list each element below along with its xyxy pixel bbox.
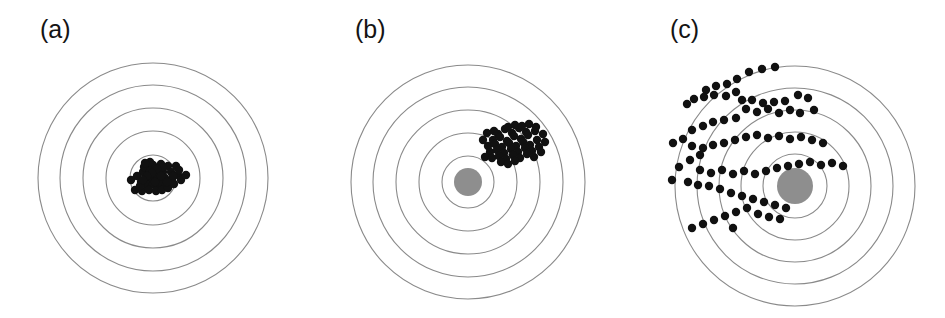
shot-dot (806, 158, 814, 166)
shot-dot (707, 169, 715, 177)
shot-dot (732, 114, 740, 122)
panel-label-b: (b) (355, 14, 386, 44)
shot-dot (723, 80, 731, 88)
shot-dot (753, 108, 761, 116)
shot-dot (786, 135, 794, 143)
bullseye-center (777, 168, 813, 204)
shot-dot (175, 166, 183, 174)
target-panel-b: (b) (315, 0, 630, 318)
target-panel-a: (a) (0, 0, 315, 318)
shot-dot (732, 208, 740, 216)
shot-dot (732, 88, 740, 96)
shot-dot (754, 210, 762, 218)
shot-dot (731, 136, 739, 144)
shot-dot (688, 224, 696, 232)
shot-dot (775, 109, 783, 117)
shot-dot (541, 138, 549, 146)
shot-dot (669, 139, 677, 147)
shot-dot (781, 97, 789, 105)
shot-dot (139, 176, 147, 184)
panel-label-a: (a) (40, 14, 71, 44)
shot-dot-group (479, 120, 549, 168)
shot-dot (828, 159, 836, 167)
shot-dot (710, 91, 718, 99)
shot-dot (709, 118, 717, 126)
shot-dot (758, 65, 766, 73)
accuracy-precision-figure: (a) (b) (c) (0, 0, 945, 318)
shot-dot (721, 212, 729, 220)
shot-dot (839, 162, 847, 170)
shot-dot (537, 148, 545, 156)
shot-dot (795, 160, 803, 168)
shot-dot (696, 166, 704, 174)
shot-dot (753, 131, 761, 139)
bullseye-center (454, 168, 482, 196)
shot-dot (716, 185, 724, 193)
shot-dot (722, 92, 730, 100)
shot-dot (765, 213, 773, 221)
shot-dot (751, 170, 759, 178)
shot-dot (727, 189, 735, 197)
shot-dot (141, 159, 149, 167)
shot-dot (688, 126, 696, 134)
shot-dot (771, 201, 779, 209)
shot-dot (819, 139, 827, 147)
shot-dot (720, 116, 728, 124)
shot-dot (699, 220, 707, 228)
shot-dot (700, 93, 708, 101)
shot-dot (705, 182, 713, 190)
shot-dot (733, 75, 741, 83)
shot-dot (127, 176, 135, 184)
shot-dot (163, 178, 171, 186)
shot-dot (688, 142, 696, 150)
shot-dot (773, 164, 781, 172)
shot-dot (794, 91, 802, 99)
shot-dot (742, 105, 750, 113)
shot-dot (490, 127, 498, 135)
shot-dot (729, 224, 737, 232)
shot-dot (748, 96, 756, 104)
shot-dot (782, 204, 790, 212)
shot-dot-group (127, 158, 190, 195)
shot-dot (764, 134, 772, 142)
shot-dot (796, 109, 804, 117)
shot-dot (182, 171, 190, 179)
shot-dot (729, 170, 737, 178)
shot-dot (804, 94, 812, 102)
shot-dot (718, 166, 726, 174)
shot-dot (690, 95, 698, 103)
shot-dot (679, 135, 687, 143)
shot-dot (675, 163, 683, 171)
shot-dot (710, 216, 718, 224)
shot-dot (749, 195, 757, 203)
shot-dot (797, 133, 805, 141)
shot-dot (720, 139, 728, 147)
shot-dot (808, 136, 816, 144)
shot-dot (699, 122, 707, 130)
target-diagram-a (0, 0, 315, 318)
shot-dot (810, 106, 818, 114)
shot-dot (784, 162, 792, 170)
panel-label-c: (c) (670, 14, 699, 44)
target-diagram-c (630, 0, 945, 318)
shot-dot (539, 130, 547, 138)
shot-dot (532, 123, 540, 131)
shot-dot (530, 153, 538, 161)
shot-dot (742, 133, 750, 141)
shot-dot (786, 106, 794, 114)
shot-dot (709, 141, 717, 149)
target-panel-c: (c) (630, 0, 945, 318)
shot-dot (683, 100, 691, 108)
shot-dot (775, 132, 783, 140)
shot-dot (684, 178, 692, 186)
shot-dot (169, 172, 177, 180)
shot-dot (696, 151, 704, 159)
shot-dot (770, 98, 778, 106)
shot-dot (738, 96, 746, 104)
shot-dot (151, 178, 159, 186)
shot-dot (776, 215, 784, 223)
shot-dot (694, 181, 702, 189)
shot-dot (712, 82, 720, 90)
shot-dot (745, 68, 753, 76)
shot-dot (817, 161, 825, 169)
